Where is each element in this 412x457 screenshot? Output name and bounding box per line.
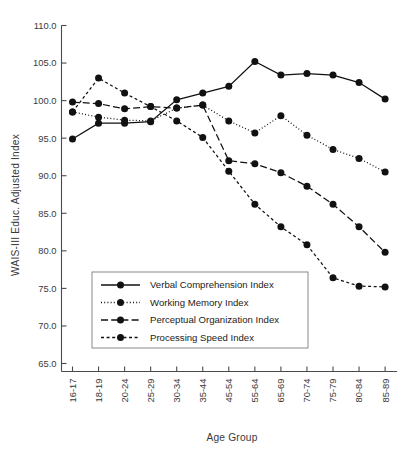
y-tick-label: 75.0 [38,283,56,294]
data-point [277,169,284,176]
x-tick-label: 25-29 [145,379,156,403]
data-point [382,168,389,175]
data-point [277,72,284,79]
data-point [382,249,389,256]
legend-label: Working Memory Index [150,297,249,308]
data-point [251,201,258,208]
line-chart: 110.0105.0100.095.090.085.080.075.070.06… [0,0,412,457]
legend-label: Processing Speed Index [150,332,254,343]
y-tick-label: 65.0 [38,358,56,369]
x-tick-label: 35-44 [197,379,208,403]
data-point [251,129,258,136]
data-point [121,90,128,97]
data-point [95,120,102,127]
data-point [356,155,363,162]
data-point [330,201,337,208]
x-tick-label: 65-69 [275,379,286,403]
y-tick-label: 85.0 [38,208,56,219]
data-point [225,157,232,164]
y-tick-label: 110.0 [34,20,57,31]
data-point [69,99,76,106]
data-point [225,168,232,175]
y-tick-label: 105.0 [33,57,56,68]
data-point [147,117,154,124]
series-line [73,78,386,287]
y-tick-label: 90.0 [38,170,56,181]
x-tick-label: 16-17 [67,379,78,403]
series-working-memory-index [69,102,389,176]
legend-label: Verbal Comprehension Index [150,279,274,290]
y-tick-label: 95.0 [38,133,56,144]
data-point [173,105,180,112]
data-point [303,70,310,77]
data-point [225,83,232,90]
data-point [277,223,284,230]
data-point [303,183,310,190]
data-point [330,72,337,79]
y-tick-label: 100.0 [33,95,56,106]
data-point [356,223,363,230]
data-point [69,108,76,115]
data-point [330,146,337,153]
x-tick-label: 75-79 [327,379,338,403]
y-tick-label: 70.0 [38,320,56,331]
data-point [251,58,258,65]
data-point [199,102,206,109]
data-point [199,90,206,97]
series-verbal-comprehension-index [69,58,389,142]
series-line [73,102,386,252]
data-point [277,112,284,119]
legend-marker [117,299,124,306]
y-tick-label: 80.0 [38,245,56,256]
x-tick-label: 18-19 [93,379,104,403]
data-point [382,283,389,290]
data-point [356,283,363,290]
data-point [147,103,154,110]
chart-legend: Verbal Comprehension IndexWorking Memory… [92,272,308,348]
data-point [225,117,232,124]
data-point [356,79,363,86]
data-point [303,241,310,248]
data-point [69,135,76,142]
data-point [382,96,389,103]
data-point [95,114,102,121]
data-point [330,274,337,281]
y-axis: 110.0105.0100.095.090.085.080.075.070.06… [33,20,66,372]
x-tick-label: 20-24 [119,379,130,403]
x-tick-label: 85-89 [380,379,391,403]
chart-container: 110.0105.0100.095.090.085.080.075.070.06… [0,0,412,457]
x-tick-label: 30-34 [171,379,182,403]
data-point [303,132,310,139]
data-point [199,134,206,141]
x-tick-label: 80-84 [353,379,364,403]
legend-label: Perceptual Organization Index [150,314,279,325]
legend-marker [117,282,124,289]
legend-marker [117,334,124,341]
x-tick-label: 70-74 [301,379,312,403]
data-point [95,75,102,82]
data-point [173,117,180,124]
x-tick-label: 55-64 [249,379,260,403]
x-axis-title: Age Group [206,432,257,443]
y-axis-title: WAIS-III Educ. Adjusted Index [10,134,21,276]
series-line [73,62,386,139]
x-axis: 16-1718-1920-2425-2930-3435-4445-5455-64… [62,367,398,403]
data-point [173,96,180,103]
data-point [95,100,102,107]
data-point [121,105,128,112]
x-tick-label: 45-54 [223,379,234,403]
data-point [251,160,258,167]
legend-marker [117,317,124,324]
series-layer [69,58,389,290]
data-point [121,117,128,124]
